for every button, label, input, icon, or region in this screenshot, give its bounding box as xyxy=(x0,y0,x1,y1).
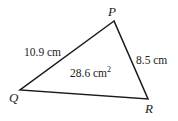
vertex-label-q: Q xyxy=(9,90,19,105)
area-value: 28.6 cm xyxy=(70,67,107,79)
triangle-diagram: P Q R 10.9 cm 8.5 cm 28.6 cm2 xyxy=(0,0,178,121)
side-label-qp: 10.9 cm xyxy=(24,46,61,58)
triangle-pqr xyxy=(20,21,148,99)
vertex-label-p: P xyxy=(107,4,116,19)
area-superscript: 2 xyxy=(107,65,111,74)
area-label: 28.6 cm2 xyxy=(70,65,111,79)
side-label-pr: 8.5 cm xyxy=(136,54,167,66)
vertex-label-r: R xyxy=(144,101,153,116)
